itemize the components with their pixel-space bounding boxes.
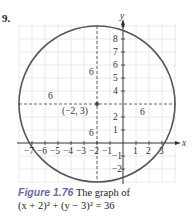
svg-text:−6: −6 [37, 146, 47, 156]
svg-text:3: 3 [159, 146, 164, 156]
svg-text:6: 6 [48, 91, 53, 101]
svg-text:−2: −2 [112, 164, 122, 174]
x-axis-arrow-icon [175, 141, 181, 145]
svg-text:5: 5 [113, 73, 118, 83]
svg-text:1: 1 [133, 146, 138, 156]
svg-text:−4: −4 [63, 146, 73, 156]
svg-text:−1: −1 [112, 151, 122, 161]
figure-label: Figure 1.76 [18, 186, 73, 198]
svg-text:7: 7 [113, 47, 118, 57]
caption-equation: (x + 2)² + (y − 3)² = 36 [18, 199, 130, 212]
svg-text:−2: −2 [89, 146, 99, 156]
center-point [95, 102, 99, 106]
svg-text:6: 6 [89, 67, 94, 77]
svg-text:6: 6 [89, 128, 94, 138]
svg-text:1: 1 [113, 125, 118, 135]
center-label: (−2, 3) [62, 106, 88, 117]
svg-text:4: 4 [113, 86, 118, 96]
y-axis-label: y [119, 11, 125, 21]
figure-caption: Figure 1.76 The graph of (x + 2)² + (y −… [18, 186, 130, 212]
svg-text:8: 8 [113, 34, 118, 44]
svg-text:6: 6 [113, 60, 118, 70]
svg-text:6: 6 [140, 107, 145, 117]
caption-line1: The graph of [76, 187, 130, 198]
svg-text:2: 2 [146, 146, 151, 156]
svg-text:−5: −5 [50, 146, 60, 156]
svg-text:2: 2 [113, 112, 118, 122]
svg-text:−3: −3 [76, 146, 86, 156]
x-axis-label: x [181, 138, 187, 148]
svg-text:−1: −1 [102, 146, 112, 156]
svg-text:−7: −7 [24, 146, 34, 156]
